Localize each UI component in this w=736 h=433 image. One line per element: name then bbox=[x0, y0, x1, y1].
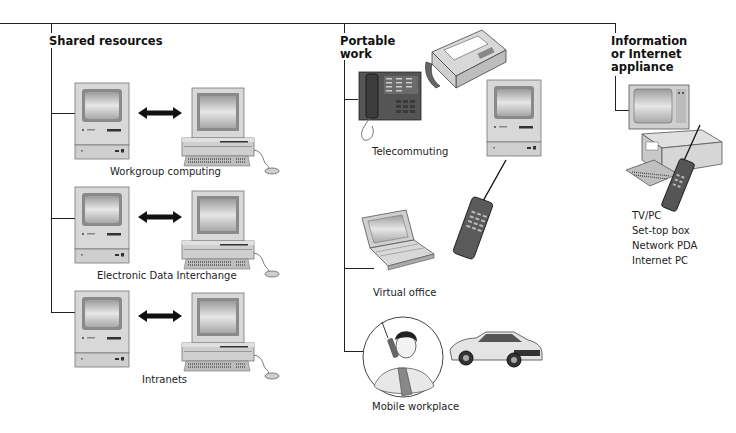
information-appliance-stem bbox=[615, 23, 616, 33]
heading-portable-line2: work bbox=[340, 48, 395, 61]
bidirectional-arrow-icon bbox=[138, 211, 184, 225]
shared-resources-stem bbox=[51, 23, 52, 33]
desktop-computer-icon bbox=[75, 187, 131, 265]
person-on-phone-icon bbox=[362, 316, 444, 398]
information-appliance-vertical bbox=[615, 76, 616, 110]
heading-information-appliance: Information or Internet appliance bbox=[611, 35, 687, 74]
caption-intranets: Intranets bbox=[142, 374, 187, 385]
cellular-phone-icon bbox=[446, 160, 506, 264]
portable-work-vertical bbox=[344, 60, 345, 352]
bidirectional-arrow-icon bbox=[138, 107, 184, 121]
list-item-network-pda: Network PDA bbox=[632, 238, 697, 253]
list-item-set-top-box: Set-top box bbox=[632, 223, 697, 238]
portable-work-stem bbox=[344, 23, 345, 33]
heading-shared-resources: Shared resources bbox=[49, 35, 162, 48]
list-item-internet-pc: Internet PC bbox=[632, 253, 697, 268]
heading-info-line3: appliance bbox=[611, 61, 687, 74]
branch-intranets bbox=[51, 312, 75, 313]
desktop-computer-icon bbox=[75, 291, 131, 369]
shared-resources-vertical bbox=[51, 48, 52, 312]
desktop-computer-icon bbox=[487, 80, 543, 158]
list-item-tv-pc: TV/PC bbox=[632, 208, 697, 223]
heading-portable-work: Portable work bbox=[340, 35, 395, 61]
branch-edi bbox=[51, 218, 75, 219]
top-connector-line bbox=[0, 23, 616, 24]
bidirectional-arrow-icon bbox=[138, 310, 184, 324]
office-phone-icon bbox=[356, 70, 426, 142]
caption-workgroup-computing: Workgroup computing bbox=[110, 166, 221, 177]
information-appliance-list: TV/PC Set-top box Network PDA Internet P… bbox=[632, 208, 697, 268]
branch-mobile-workplace bbox=[344, 351, 364, 352]
desktop-computer-icon bbox=[75, 83, 131, 161]
cellular-phone-icon bbox=[648, 125, 704, 215]
pc-workstation-icon bbox=[182, 88, 282, 178]
branch-workgroup bbox=[51, 113, 75, 114]
caption-electronic-data-interchange: Electronic Data Interchange bbox=[97, 270, 237, 281]
sports-car-icon bbox=[448, 328, 544, 370]
caption-mobile-workplace: Mobile workplace bbox=[372, 401, 459, 412]
laptop-icon bbox=[360, 208, 434, 274]
pc-workstation-icon bbox=[182, 191, 282, 281]
caption-telecommuting: Telecommuting bbox=[372, 146, 448, 157]
caption-virtual-office: Virtual office bbox=[373, 287, 436, 298]
branch-tvpc bbox=[615, 110, 629, 111]
pc-workstation-icon bbox=[182, 293, 282, 383]
